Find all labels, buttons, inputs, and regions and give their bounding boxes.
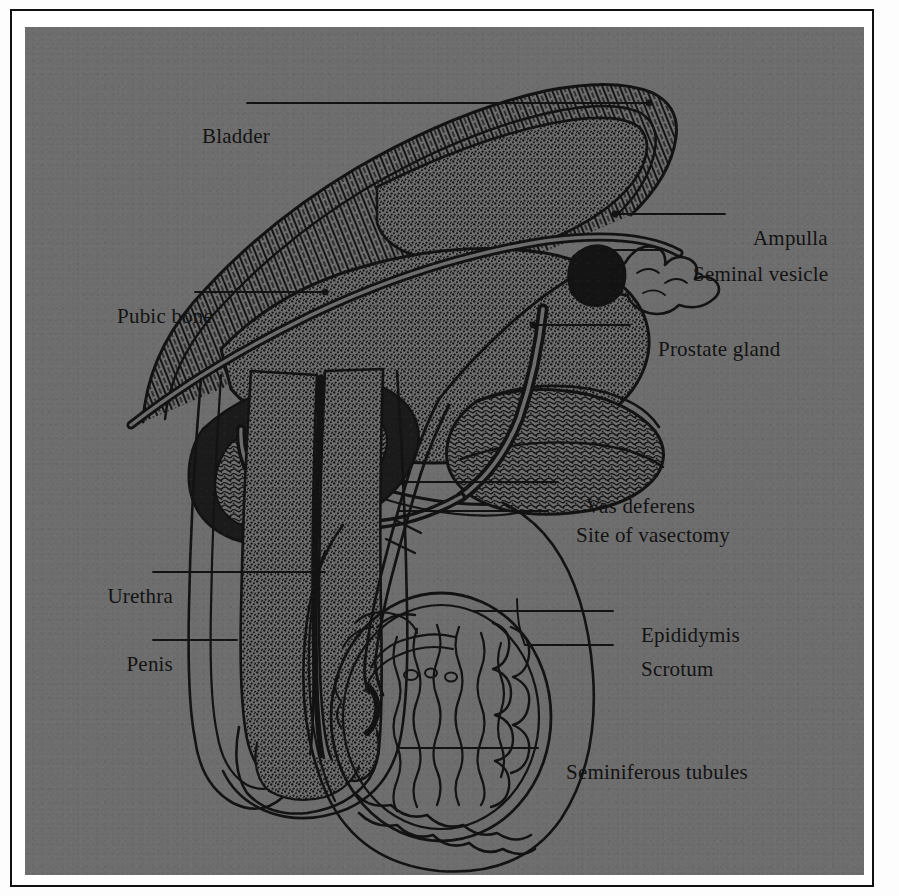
label-seminal-vesicle: Seminal vesicle	[693, 264, 828, 285]
label-urethra: Urethra	[107, 586, 173, 607]
anatomy-line-art	[25, 27, 864, 875]
label-prostate-gland: Prostate gland	[658, 339, 780, 360]
figure-page: Bladder Pubic bone Urethra Penis Ampulla…	[0, 0, 899, 896]
label-epididymis: Epididymis	[641, 625, 740, 646]
label-pubic-bone: Pubic bone	[117, 306, 213, 327]
label-bladder: Bladder	[202, 126, 270, 147]
label-penis: Penis	[126, 654, 173, 675]
label-scrotum: Scrotum	[641, 659, 714, 680]
label-ampulla: Ampulla	[753, 228, 828, 249]
label-site-of-vasectomy: Site of vasectomy	[576, 525, 730, 546]
label-seminiferous-tubules: Seminiferous tubules	[566, 762, 748, 783]
label-vas-deferens: Vas deferens	[586, 496, 695, 517]
illustration-plate: Bladder Pubic bone Urethra Penis Ampulla…	[25, 27, 864, 875]
